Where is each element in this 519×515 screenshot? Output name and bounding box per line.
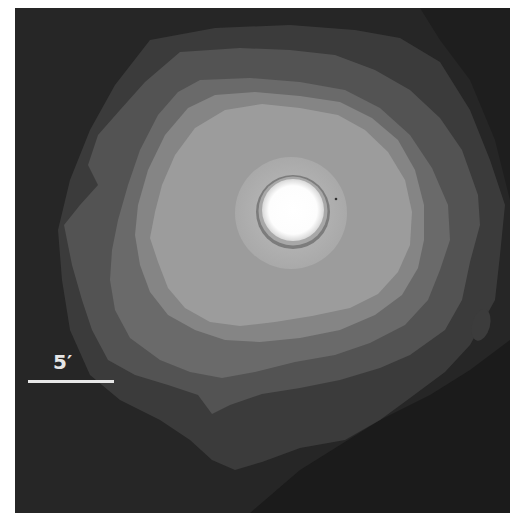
contour-image [0, 0, 519, 515]
scale-bar-label: 5′ [53, 350, 72, 374]
scale-bar [28, 380, 114, 383]
point-source-dot [335, 198, 338, 201]
bright-core [262, 179, 324, 241]
